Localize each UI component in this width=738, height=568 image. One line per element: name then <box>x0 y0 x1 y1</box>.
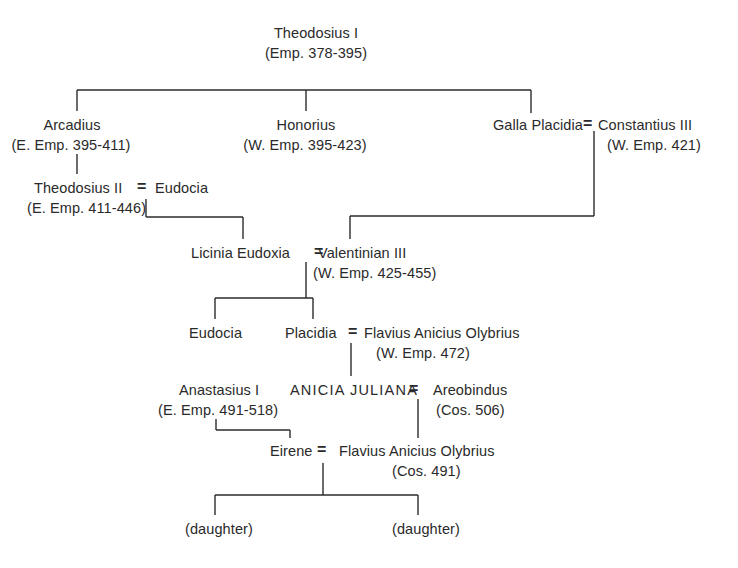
marriage-symbol-galla-constantius: = <box>583 115 592 133</box>
person-honorius-note: (W. Emp. 395-423) <box>243 136 366 154</box>
connector-lines <box>0 0 738 568</box>
person-theodosius2-name: Theodosius II <box>34 179 122 197</box>
person-licinia-eudoxia-name: Licinia Eudoxia <box>191 244 290 262</box>
person-olybrius-emp-name: Flavius Anicius Olybrius <box>364 324 520 342</box>
person-galla-placidia-name: Galla Placidia <box>493 116 583 134</box>
person-theodosius1-name: Theodosius I <box>274 24 358 42</box>
person-eirene-name: Eirene <box>270 442 313 460</box>
person-arcadius-name: Arcadius <box>43 116 100 134</box>
person-arcadius-note: (E. Emp. 395-411) <box>11 136 130 154</box>
person-theodosius1-note: (Emp. 378-395) <box>265 44 367 62</box>
person-valentinian3-note: (W. Emp. 425-455) <box>313 264 436 282</box>
person-placidia-name: Placidia <box>285 324 337 342</box>
marriage-symbol-theodosius2-eudocia: = <box>137 178 146 196</box>
person-areobindus-note: (Cos. 506) <box>436 401 505 419</box>
person-areobindus-name: Areobindus <box>433 381 507 399</box>
marriage-symbol-juliana-areobindus: = <box>409 380 418 398</box>
marriage-symbol-placidia-olybrius: = <box>348 323 357 341</box>
person-anicia-juliana-name: ANICIA JULIANA <box>290 381 418 399</box>
person-olybrius-cos-name: Flavius Anicius Olybrius <box>339 442 495 460</box>
marriage-symbol-eirene-olybrius: = <box>317 441 326 459</box>
person-constantius3-note: (W. Emp. 421) <box>607 136 701 154</box>
person-daughter2-name: (daughter) <box>392 520 460 538</box>
person-constantius3-name: Constantius III <box>598 116 692 134</box>
person-valentinian3-name: Valentinian III <box>318 244 406 262</box>
person-anastasius1-name: Anastasius I <box>179 381 259 399</box>
person-olybrius-cos-note: (Cos. 491) <box>392 462 461 480</box>
person-eudocia-wife-name: Eudocia <box>155 179 208 197</box>
person-theodosius2-note: (E. Emp. 411-446) <box>27 199 146 217</box>
person-honorius-name: Honorius <box>277 116 336 134</box>
person-olybrius-emp-note: (W. Emp. 472) <box>376 344 470 362</box>
person-daughter1-name: (daughter) <box>185 520 253 538</box>
person-anastasius1-note: (E. Emp. 491-518) <box>158 401 278 419</box>
person-eudocia-daughter-name: Eudocia <box>189 324 242 342</box>
